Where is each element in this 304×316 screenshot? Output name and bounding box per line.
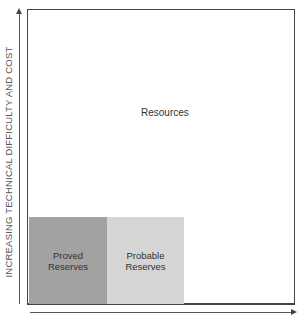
resources-label: Resources xyxy=(141,107,189,118)
probable-reserves-region: Probable Reserves xyxy=(107,217,184,304)
proved-reserves-label-line2: Reserves xyxy=(48,261,88,272)
proved-reserves-label-line1: Proved xyxy=(48,250,88,261)
arrow-right-icon xyxy=(291,309,297,315)
probable-reserves-label-line2: Reserves xyxy=(125,261,165,272)
proved-reserves-region: Proved Reserves xyxy=(29,217,107,304)
arrow-up-icon xyxy=(16,8,22,14)
probable-reserves-label-line1: Probable xyxy=(125,250,165,261)
y-axis-line xyxy=(19,12,20,304)
y-axis-label: INCREASING TECHNICAL DIFFICULTY AND COST xyxy=(3,47,14,278)
x-axis-line xyxy=(30,312,292,313)
